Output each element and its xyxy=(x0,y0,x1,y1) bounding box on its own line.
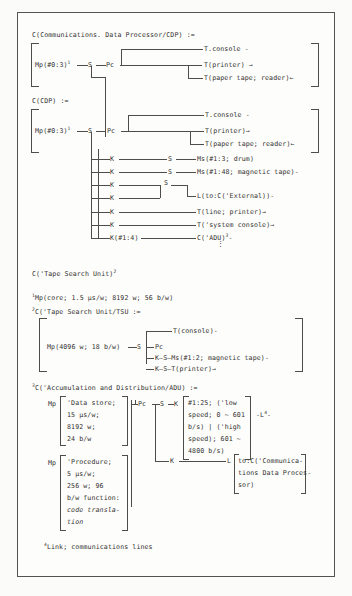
k-target: Ms(#1:48; magnetic tape)- xyxy=(197,168,299,176)
adu-l-lower: L xyxy=(227,457,231,465)
cdp2-mp-superscript: 1 xyxy=(68,126,71,131)
adu-k: K xyxy=(174,400,178,408)
tsu-row-printer: K—S—T(printer)→ xyxy=(155,365,216,373)
cdp-mp-superscript: 1 xyxy=(68,60,71,65)
k-stub xyxy=(91,185,110,186)
k-stub xyxy=(91,172,110,173)
cdp-out-printer: T(printer) → xyxy=(204,61,253,69)
tsu-left-bracket xyxy=(39,318,47,372)
adu-data-store-line: 8192 w; xyxy=(67,423,96,431)
adu-data-store-line: 15 μs/w; xyxy=(67,411,100,419)
cdp-s-jog xyxy=(91,77,105,78)
adu-speed-right-bracket xyxy=(245,396,251,460)
k-target-adu: C('ADU)3- xyxy=(197,234,232,242)
k-stub xyxy=(91,225,110,226)
adu-mp-pc-link xyxy=(131,404,138,405)
k-target-rule xyxy=(119,225,196,226)
tsu-printer-stub xyxy=(146,369,154,370)
adu-pc: Pc xyxy=(138,400,146,408)
tape-search-unit-ref: C('Tape Search Unit)2 xyxy=(32,270,116,278)
cdp2-pc: Pc xyxy=(107,127,115,135)
k-target: T(line; printer)→ xyxy=(197,208,266,216)
adu-data-store-line: 'Data store; xyxy=(67,399,116,407)
k-target-external: L(to:C('External))- xyxy=(197,192,274,200)
k-label-indexed: K(#1:4) xyxy=(110,234,139,242)
k-label: K xyxy=(110,221,114,229)
k-target-rule xyxy=(141,238,196,239)
adu-data-store-line: 24 b/w xyxy=(67,435,91,443)
cdp2-out-paper-tape: T(paper tape; reader)← xyxy=(205,140,295,148)
tsu-console-rail xyxy=(154,331,172,332)
k-s-rule xyxy=(119,172,167,173)
tsu-mp-s-link xyxy=(128,347,137,348)
diagram-canvas: C(Communications. Data Processor/CDP) :=… xyxy=(18,13,334,576)
adu-speed-line: 4800 b/s) xyxy=(188,447,225,455)
s-external-rail xyxy=(171,185,187,186)
adu-k-l-rule xyxy=(179,461,226,462)
k-stub xyxy=(91,212,110,213)
cdp-pc-bus xyxy=(120,65,202,66)
adu-comm-line: tions Data Proces- xyxy=(238,469,311,477)
k-target-rule xyxy=(119,212,196,213)
adu-procedure-italic-line: code transla- xyxy=(67,506,120,514)
cdp2-pc-bus xyxy=(121,131,204,132)
k-label: K xyxy=(110,208,114,216)
tsu-mp: Mp(4096 w; 18 b/w) xyxy=(47,343,120,351)
cdp2-out-printer: T(printer)→ xyxy=(205,127,250,135)
cdp2-console-rail xyxy=(128,115,204,116)
k-target: T('system console)→ xyxy=(197,221,274,229)
cdp-s-drop-b xyxy=(105,77,106,137)
footnote-2-heading: 2C('Tape Search Unit/TSU := xyxy=(32,308,141,316)
adu-comm-line: to:C('Communica- xyxy=(238,457,303,465)
s-external-foot xyxy=(187,196,196,197)
cdp2-paper-tape-rail xyxy=(190,144,204,145)
cdp-heading: C(Communications. Data Processor/CDP) := xyxy=(32,31,195,39)
k-s-rule xyxy=(119,185,160,186)
cdp-s-drop-a xyxy=(91,66,92,77)
cdp2-out-console: T.console - xyxy=(205,111,250,119)
adu-link-marker: -L4- xyxy=(256,411,271,419)
adu-procedure-line: 5 μs/w; xyxy=(67,470,96,478)
adu-lower-rail xyxy=(155,461,169,462)
k-label: K xyxy=(110,181,114,189)
s-external-drop xyxy=(187,185,188,196)
adu-procedure-right-bracket xyxy=(122,455,128,531)
cdp2-heading: C(CDP) := xyxy=(32,97,69,105)
cdp-paper-tape-rail xyxy=(188,78,203,79)
adu-pc-s-link xyxy=(152,404,160,405)
k-stub xyxy=(91,159,110,160)
cdp-out-paper-tape: T(paper tape; reader)← xyxy=(204,74,294,82)
diagram-frame: C(Communications. Data Processor/CDP) :=… xyxy=(17,12,335,577)
k-label: K xyxy=(110,155,114,163)
tsu-tape-stub xyxy=(146,358,154,359)
tsu-console-stub xyxy=(146,331,154,332)
cdp-console-rail xyxy=(121,49,203,50)
footnote-1: 1Mp(core; 1.5 μs/w; 8192 w; 56 b/w) xyxy=(32,294,173,302)
adu-mp-b-label: Mp xyxy=(48,459,56,467)
k-target: Ms(#1:3; drum) xyxy=(197,155,254,163)
k-s-label: S xyxy=(164,179,168,187)
adu-mp-a-label: Mp xyxy=(48,400,56,408)
footnote-4: 4Link; communications lines xyxy=(44,543,153,551)
tsu-pc-stub xyxy=(146,347,154,348)
adu-speed-line: speed); 601 ~ xyxy=(188,435,241,443)
tsu-pc: Pc xyxy=(155,343,163,351)
k-s-label: S xyxy=(168,155,172,163)
adu-data-store-right-bracket xyxy=(122,396,128,446)
adu-k-lower: K xyxy=(170,457,174,465)
adu-s: S xyxy=(160,400,164,408)
cdp2-paper-tape-drop xyxy=(190,131,191,144)
adu-speed-line: #1:25; ('low xyxy=(188,399,237,407)
adu-procedure-left-bracket xyxy=(60,455,66,531)
s-target-rule xyxy=(176,159,196,160)
adu-pc-drop xyxy=(155,404,156,411)
adu-lower-drop xyxy=(155,411,156,461)
adu-mp-rail xyxy=(131,400,132,507)
adu-data-store-left-bracket xyxy=(60,396,66,446)
adu-procedure-line: 'Procedure; xyxy=(67,458,112,466)
cdp-mp-s-link xyxy=(77,65,88,66)
cdp-out-console: T.console - xyxy=(204,45,249,53)
cdp-s-pc-link xyxy=(96,65,106,66)
adu-procedure-line: b/w function: xyxy=(67,494,120,502)
cdp-paper-tape-drop xyxy=(188,65,189,78)
